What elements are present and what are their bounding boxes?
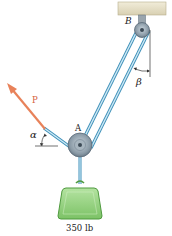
- label-b: B: [124, 16, 132, 26]
- pulley-diagram: B A P α β 350 lb: [0, 0, 172, 236]
- label-load: 350 lb: [66, 223, 94, 233]
- label-beta: β: [135, 76, 142, 87]
- label-p: P: [32, 95, 38, 105]
- pulley-a: [68, 133, 92, 157]
- label-alpha: α: [30, 129, 37, 140]
- weight-350lb: [58, 181, 102, 219]
- label-a: A: [74, 123, 82, 133]
- pulley-b: [135, 23, 150, 38]
- ceiling-support: [118, 2, 166, 15]
- force-p-arrow: [7, 83, 45, 129]
- cable: [44, 31, 149, 184]
